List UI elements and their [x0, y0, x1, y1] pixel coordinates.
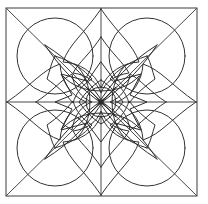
rosette-figure: Geometric Rosette Line Drawing Symmetric… [0, 0, 208, 204]
artboard: Geometric Rosette Line Drawing Symmetric… [0, 0, 208, 204]
